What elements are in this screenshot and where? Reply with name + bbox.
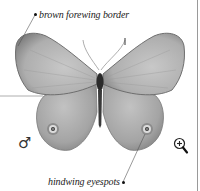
page-edge-line <box>197 0 198 191</box>
male-symbol-icon: ♂ <box>18 136 31 151</box>
abdomen <box>98 90 102 128</box>
zoom-in-icon[interactable] <box>173 137 189 155</box>
right-eyespot <box>141 123 153 135</box>
annotation-forewing-border: brown forewing border <box>39 9 129 21</box>
butterfly-figure <box>0 0 200 191</box>
butterfly-illustration: brown forewing border hindwing eyespots … <box>0 0 200 191</box>
annotation-dot <box>34 13 37 16</box>
annotation-hindwing-eyespots: hindwing eyespots <box>48 176 120 188</box>
annotation-dot <box>122 181 125 184</box>
left-eyespot <box>47 123 59 135</box>
thorax <box>97 73 104 91</box>
